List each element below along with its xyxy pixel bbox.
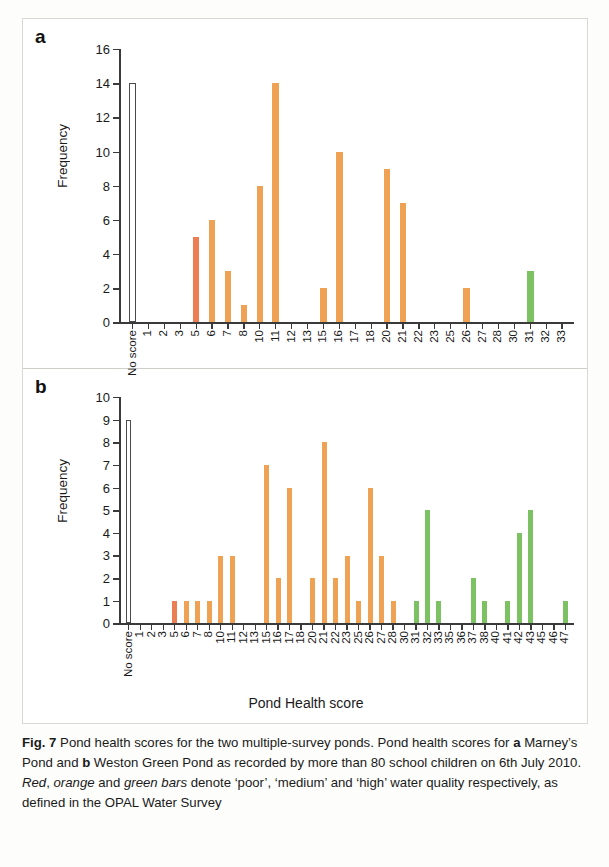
- bar: [257, 186, 264, 323]
- x-tick: [335, 625, 336, 630]
- x-tick-label: No score: [123, 631, 135, 677]
- panel-b: b Frequency 012345678910No score12356781…: [23, 369, 589, 725]
- x-tick: [266, 625, 267, 630]
- bar: [272, 83, 279, 322]
- bar: [517, 533, 522, 624]
- x-tick-label: 2: [158, 330, 170, 336]
- x-tick-label: 22: [413, 330, 425, 343]
- x-tick-label: 3: [174, 330, 186, 336]
- x-tick-label: 28: [492, 330, 504, 343]
- x-tick: [434, 324, 435, 329]
- y-tick: [113, 117, 119, 118]
- x-tick: [415, 625, 416, 630]
- x-tick: [128, 625, 129, 630]
- x-tick-label: 27: [477, 330, 489, 343]
- panel-b-x-axis-title: Pond Health score: [23, 695, 589, 711]
- x-tick-label: 6: [206, 330, 218, 336]
- x-tick: [163, 625, 164, 630]
- x-tick: [275, 324, 276, 329]
- x-tick: [496, 625, 497, 630]
- panel-a-letter: a: [35, 27, 46, 46]
- bar: [356, 601, 361, 624]
- y-tick: [113, 555, 119, 556]
- x-tick: [307, 324, 308, 329]
- x-tick: [291, 324, 292, 329]
- y-tick: [113, 288, 119, 289]
- bar: [336, 152, 343, 323]
- bar: [172, 601, 177, 624]
- x-tick: [243, 324, 244, 329]
- x-tick-label: 23: [341, 631, 353, 644]
- y-tick: [113, 488, 119, 489]
- x-tick: [450, 625, 451, 630]
- bar: [129, 83, 136, 322]
- x-tick: [438, 625, 439, 630]
- x-tick: [473, 625, 474, 630]
- bar: [218, 556, 223, 624]
- bar: [527, 271, 534, 322]
- y-tick-label: 2: [103, 282, 110, 295]
- bar: [505, 601, 510, 624]
- x-tick-label: 25: [445, 330, 457, 343]
- x-tick: [498, 324, 499, 329]
- y-tick: [113, 220, 119, 221]
- bar: [126, 420, 131, 624]
- x-tick: [243, 625, 244, 630]
- x-tick: [211, 324, 212, 329]
- figure-container: a Frequency 0246810121416No score1235678…: [22, 18, 588, 724]
- y-tick-label: 9: [103, 413, 110, 426]
- x-tick: [386, 324, 387, 329]
- caption-segment-10: green bars: [124, 775, 187, 790]
- x-tick-label: 21: [397, 330, 409, 343]
- y-tick-label: 5: [103, 504, 110, 517]
- y-tick: [113, 186, 119, 187]
- caption-segment-0: Fig. 7: [22, 735, 56, 750]
- x-tick-label: 11: [270, 330, 282, 342]
- y-tick: [113, 601, 119, 602]
- y-tick-label: 10: [96, 145, 110, 158]
- bar: [414, 601, 419, 624]
- x-tick: [300, 625, 301, 630]
- x-tick: [186, 625, 187, 630]
- x-tick: [507, 625, 508, 630]
- y-tick-label: 12: [96, 111, 110, 124]
- x-tick: [381, 625, 382, 630]
- panel-a-y-axis-label: Frequency: [55, 124, 70, 188]
- x-tick: [514, 324, 515, 329]
- x-tick: [323, 625, 324, 630]
- x-tick: [561, 324, 562, 329]
- x-tick-label: 7: [222, 330, 234, 336]
- y-tick-label: 0: [103, 316, 110, 329]
- x-tick-label: 12: [286, 330, 298, 343]
- x-tick: [180, 324, 181, 329]
- panel-a-plot-area: 0246810121416No score1235678101112131516…: [119, 49, 574, 324]
- y-tick-label: 0: [103, 617, 110, 630]
- x-tick: [148, 324, 149, 329]
- x-tick: [530, 324, 531, 329]
- caption-segment-4: b: [82, 755, 90, 770]
- x-tick: [402, 324, 403, 329]
- y-tick: [113, 254, 119, 255]
- x-tick: [174, 625, 175, 630]
- y-tick: [113, 578, 119, 579]
- bar: [463, 288, 470, 322]
- y-tick: [113, 623, 119, 624]
- x-tick-label: 31: [524, 330, 536, 343]
- x-tick: [277, 625, 278, 630]
- x-tick: [553, 625, 554, 630]
- x-tick: [392, 625, 393, 630]
- bar: [264, 465, 269, 623]
- caption-segment-5: Weston Green Pond as recorded by more th…: [90, 755, 581, 770]
- y-tick-label: 1: [103, 594, 110, 607]
- y-tick: [113, 397, 119, 398]
- x-tick-label: 15: [317, 330, 329, 343]
- x-tick: [427, 625, 428, 630]
- bar: [384, 169, 391, 323]
- x-tick: [209, 625, 210, 630]
- bar: [320, 288, 327, 322]
- x-tick: [140, 625, 141, 630]
- bar: [368, 488, 373, 624]
- x-tick: [132, 324, 133, 329]
- x-tick: [197, 625, 198, 630]
- bar: [310, 578, 315, 623]
